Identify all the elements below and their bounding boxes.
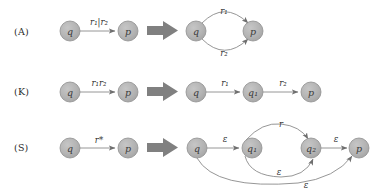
node-q1-label: q₁ <box>247 143 257 154</box>
node-p-label: p <box>308 87 314 98</box>
node-q-label: q <box>67 87 73 98</box>
edge-label-epsilon-q-p: ε <box>304 180 309 190</box>
edge-label-r2: r₂ <box>220 48 228 58</box>
row-k-block-arrow <box>147 82 178 101</box>
node-q-label: q <box>193 87 199 98</box>
node-p-label: p <box>356 143 362 154</box>
node-q2-label: q₂ <box>306 143 316 154</box>
node-q-label: q <box>194 143 200 154</box>
row-k-right-graph: q q₁ p r₁ r₂ <box>186 78 321 102</box>
row-s-block-arrow <box>147 138 178 157</box>
edge-label-epsilon-q2-p: ε <box>334 134 339 144</box>
node-q1-label: q₁ <box>248 87 258 98</box>
edge-label-r2: r₂ <box>279 78 287 88</box>
row-k-left-graph: q p r₁r₂ <box>60 78 138 102</box>
edge-label-r1: r₁ <box>221 78 228 88</box>
row-a-block-arrow <box>147 21 178 40</box>
row-s-left-graph: q p r* <box>60 135 138 158</box>
edge-label-epsilon-q2-q1: ε <box>277 167 282 177</box>
nfa-construction-figure: (A) (K) (S) q p r₁|r₂ <box>0 0 382 193</box>
node-p-label: p <box>250 26 256 37</box>
row-s-right-graph: q q₁ q₂ p ε r ε ε ε <box>187 119 369 190</box>
node-p-label: p <box>125 87 131 98</box>
node-p-label: p <box>125 26 131 37</box>
node-p-label: p <box>125 143 131 154</box>
edge-label-r-star: r* <box>95 135 104 145</box>
edge-label-r1-or-r2: r₁|r₂ <box>90 17 108 28</box>
edge-q1-to-q2-r <box>246 124 308 140</box>
node-q-label: q <box>67 26 73 37</box>
edge-label-r1r2: r₁r₂ <box>92 78 108 88</box>
edge-label-epsilon-q-q1: ε <box>223 134 228 144</box>
edge-label-r1: r₁ <box>220 6 227 16</box>
node-q-label: q <box>193 26 199 37</box>
node-q-label: q <box>67 143 73 154</box>
diagram-canvas: q p r₁|r₂ q p r₁ r₂ q p r₁r₂ <box>0 0 382 193</box>
edge-q-to-p-epsilon <box>197 156 352 184</box>
row-a-right-graph: q p r₁ r₂ <box>186 6 263 58</box>
row-a-left-graph: q p r₁|r₂ <box>60 17 138 41</box>
